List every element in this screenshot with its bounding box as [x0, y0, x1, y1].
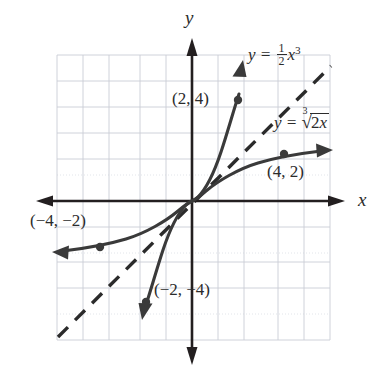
x-axis-label: x [358, 190, 366, 209]
graph-figure: x y y = 12x3 y = 3√2x (2, 4) (4, 2) (−4,… [0, 0, 390, 370]
curve-label-cubic: y = 12x3 [248, 42, 301, 67]
radicand-variable: x [319, 113, 327, 132]
cubic-coefficient-denominator: 2 [277, 54, 287, 67]
cubic-exponent: 3 [295, 44, 301, 56]
radical-label-prefix: y = [274, 113, 302, 132]
cubic-coefficient-fraction: 12 [277, 42, 287, 67]
radicand: 2x [310, 113, 329, 131]
coordinate-plane [0, 0, 390, 370]
curve-label-radical: y = 3√2x [274, 112, 329, 131]
point-label-2-4: (2, 4) [172, 90, 209, 107]
cubic-variable: x [288, 45, 296, 64]
radical-index: 3 [303, 106, 308, 116]
y-axis-label: y [185, 8, 193, 27]
point-label-4-2: (4, 2) [267, 163, 304, 180]
cubic-coefficient-numerator: 1 [277, 42, 287, 54]
cubic-label-prefix: y = [248, 45, 276, 64]
point-label-neg4-neg2: (−4, −2) [30, 212, 86, 229]
point-label-neg2-neg4: (−2, −4) [154, 281, 210, 298]
radical-expression: 3√2x [302, 112, 329, 131]
